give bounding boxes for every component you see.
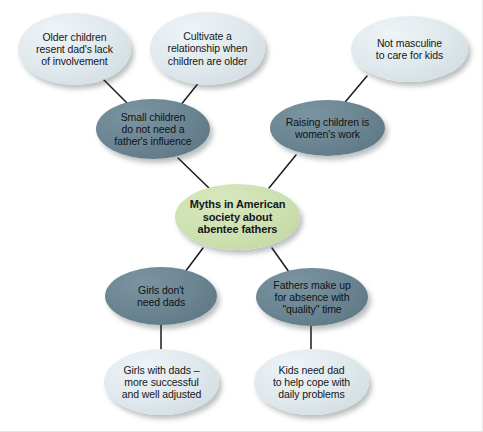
edge-center-to-girls-dont-need-dads [185, 248, 203, 272]
node-girls-with-dads-label: Girls with dads – more successful and we… [113, 364, 210, 401]
node-center-myths[interactable]: Myths in American society about abentee … [175, 184, 300, 250]
node-cultivate[interactable]: Cultivate a relationship when children a… [150, 12, 265, 85]
node-girls-with-dads[interactable]: Girls with dads – more successful and we… [104, 349, 219, 415]
edge-center-to-fathers-make-up [272, 248, 289, 272]
node-kids-need-dad-label: Kids need dad to help cope with daily pr… [264, 364, 359, 401]
edge-raising-children-to-center [269, 155, 296, 188]
node-older-children-label: Older children resent dad's lack of invo… [27, 31, 122, 68]
node-not-masculine-label: Not masculine to care for kids [367, 37, 452, 62]
node-raising-children-label: Raising children is women's work [277, 116, 378, 141]
node-raising-children[interactable]: Raising children is women's work [270, 100, 385, 156]
edge-small-children-to-center [178, 158, 211, 190]
node-girls-dont-need-dads-label: Girls don't need dads [128, 284, 194, 309]
mind-map-diagram: Older children resent dad's lack of invo… [0, 0, 483, 432]
node-fathers-make-up-label: Fathers make up for absence with "qualit… [264, 279, 359, 316]
node-fathers-make-up[interactable]: Fathers make up for absence with "qualit… [256, 268, 368, 326]
node-not-masculine[interactable]: Not masculine to care for kids [351, 16, 468, 82]
node-center-myths-label: Myths in American society about abentee … [181, 198, 295, 237]
node-small-children-label: Small children do not need a father's in… [105, 111, 200, 148]
node-small-children[interactable]: Small children do not need a father's in… [96, 99, 210, 159]
node-older-children[interactable]: Older children resent dad's lack of invo… [18, 13, 131, 85]
node-girls-dont-need-dads[interactable]: Girls don't need dads [105, 267, 217, 325]
node-cultivate-label: Cultivate a relationship when children a… [158, 30, 256, 67]
node-kids-need-dad[interactable]: Kids need dad to help cope with daily pr… [254, 349, 369, 415]
